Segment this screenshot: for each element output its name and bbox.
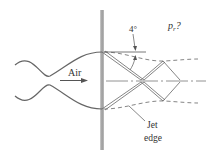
jet-edge-upper	[104, 52, 198, 61]
angle-label: 4°	[129, 24, 138, 34]
nozzle-upper-contour	[15, 52, 102, 76]
pressure-label: pr?	[167, 20, 181, 33]
nozzle-jet-diagram: pr? 4° Air Jet edge	[0, 0, 216, 159]
jet-label-line2: edge	[144, 133, 162, 143]
jet-label-line1: Jet	[147, 120, 158, 130]
angle-arrowhead-bottom	[133, 55, 137, 60]
wall	[100, 10, 104, 150]
air-label: Air	[68, 67, 82, 78]
jet-edge-lower	[104, 101, 198, 109]
angle-arrowhead-top	[133, 46, 137, 51]
jet-edge-leader	[129, 106, 145, 121]
angle-arrow-top	[133, 34, 135, 48]
nozzle-lower-contour	[15, 85, 102, 109]
air-arrowhead	[81, 78, 88, 83]
